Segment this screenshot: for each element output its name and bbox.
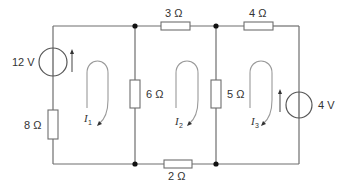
resistor-6ohm: 6 Ω — [130, 80, 163, 108]
current-subscript: 3 — [255, 122, 259, 129]
resistor-icon — [164, 160, 192, 168]
circuit-diagram: 12 V 4 V 8 Ω 6 Ω 3 Ω 5 Ω 4 Ω 2 Ω I 1 — [0, 0, 343, 191]
resistor-label: 5 Ω — [227, 88, 244, 100]
current-subscript: 1 — [88, 119, 92, 126]
loop-arrow-icon — [87, 61, 108, 124]
resistor-2ohm: 2 Ω — [164, 160, 192, 182]
resistor-8ohm: 8 Ω — [24, 110, 58, 139]
resistor-icon — [211, 80, 221, 108]
junction-node — [132, 161, 137, 166]
current-subscript: 2 — [179, 122, 183, 129]
resistor-label: 3 Ω — [165, 7, 182, 19]
voltage-source-12v: 12 V — [12, 48, 74, 76]
voltage-source-4v: 4 V — [278, 89, 335, 118]
resistor-label: 8 Ω — [24, 119, 41, 131]
source-label: 12 V — [12, 56, 35, 68]
arrow-head-icon — [70, 49, 74, 54]
resistor-icon — [48, 110, 58, 139]
loop-arrow-icon — [176, 61, 198, 124]
resistor-label: 2 Ω — [168, 170, 185, 182]
source-label: 4 V — [318, 99, 335, 111]
resistor-icon — [161, 22, 190, 30]
junction-node — [213, 161, 218, 166]
arrow-head-icon — [278, 89, 282, 94]
resistor-4ohm: 4 Ω — [244, 7, 273, 30]
resistor-label: 6 Ω — [146, 88, 163, 100]
resistor-label: 4 Ω — [249, 7, 266, 19]
mesh-current-i3: I 3 — [250, 61, 272, 129]
mesh-current-i1: I 1 — [83, 61, 108, 126]
resistor-5ohm: 5 Ω — [211, 80, 244, 108]
junction-node — [132, 23, 137, 28]
resistor-icon — [244, 22, 273, 30]
resistor-icon — [130, 80, 140, 108]
resistor-3ohm: 3 Ω — [161, 7, 190, 30]
junction-node — [213, 23, 218, 28]
mesh-current-i2: I 2 — [174, 61, 198, 129]
